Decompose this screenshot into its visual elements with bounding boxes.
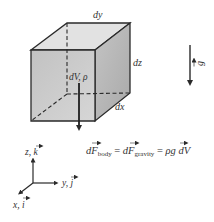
label-element: dV, ρ <box>69 72 88 82</box>
gravity-symbol: g <box>194 61 205 66</box>
z-axis-label: z, k <box>24 147 38 157</box>
equation-text: dFbody = dFgravity = ρg dV <box>86 145 192 158</box>
gravity-label: g <box>194 60 205 67</box>
cube-front-face <box>31 50 95 121</box>
label-dx: dx <box>115 101 125 112</box>
y-axis-label: y, j <box>61 178 73 188</box>
x-axis-label: x, i <box>12 200 25 210</box>
x-axis <box>20 183 33 193</box>
diagram-canvas: dy dz dx dV, ρ g dFbody = dFgravity = ρg… <box>0 0 214 222</box>
label-dy: dy <box>93 9 103 20</box>
label-dz: dz <box>133 57 142 68</box>
body-force-equation: dFbody = dFgravity = ρg dV <box>86 143 192 158</box>
coordinate-axes: z, k y, j x, i <box>12 146 76 210</box>
